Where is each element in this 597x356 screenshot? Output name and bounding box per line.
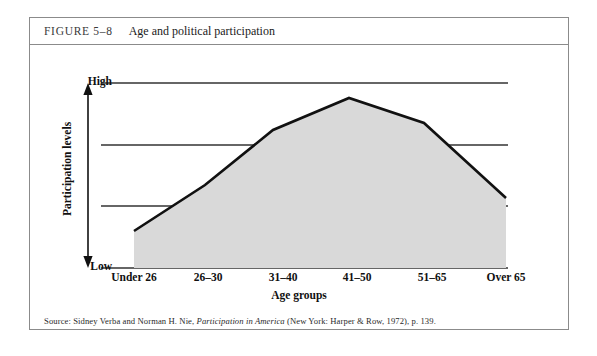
source-suffix: (New York: Harper & Row, 1972), p. 139. — [287, 316, 436, 326]
y-axis-arrow — [83, 83, 92, 268]
x-tick-label-26-30: 26–30 — [194, 271, 223, 283]
figure-title: Age and political participation — [129, 24, 275, 39]
y-axis-title: Participation levels — [61, 99, 73, 239]
x-tick-label-41-50: 41–50 — [343, 271, 372, 283]
source-note: Source: Sidney Verba and Norman H. Nie, … — [44, 316, 436, 326]
y-axis-low-label: Low — [66, 260, 112, 272]
source-italic-title: Participation in America — [197, 316, 285, 326]
y-axis-high-label: High — [66, 75, 112, 87]
area-fill — [134, 98, 506, 268]
x-tick-label-under-26: Under 26 — [111, 271, 156, 283]
figure-caption-bar: FIGURE 5–8 Age and political participati… — [30, 18, 568, 45]
figure-number: FIGURE 5–8 — [44, 25, 113, 37]
x-tick-label-51-65: 51–65 — [418, 271, 447, 283]
x-axis-title: Age groups — [30, 289, 568, 301]
x-tick-label-over-65: Over 65 — [486, 271, 525, 283]
figure-box: FIGURE 5–8 Age and political participati… — [29, 17, 569, 330]
chart-plot-area: High Low Participation levels Under 26 2… — [30, 45, 568, 331]
source-prefix: Source: Sidney Verba and Norman H. Nie, — [44, 316, 194, 326]
x-tick-label-31-40: 31–40 — [269, 271, 298, 283]
